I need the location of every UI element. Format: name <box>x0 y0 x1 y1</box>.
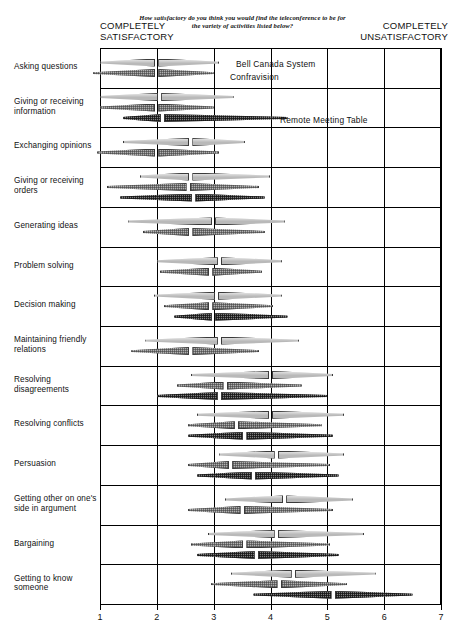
range-bar <box>197 472 339 480</box>
range-bar-upper-segment <box>244 506 333 514</box>
range-bar <box>128 217 284 225</box>
range-bar-upper-segment <box>221 257 282 265</box>
x-tick-label-4: 4 <box>261 612 281 622</box>
range-bar-upper-segment <box>190 183 260 191</box>
range-bar-upper-segment <box>215 313 287 321</box>
range-bar-lower-segment <box>191 540 243 548</box>
row-separator <box>100 247 442 248</box>
range-bar <box>188 421 322 429</box>
range-bar-upper-segment <box>278 530 365 538</box>
range-bar-upper-segment <box>164 114 288 122</box>
range-bar-lower-segment <box>231 570 292 578</box>
range-bar-lower-segment <box>197 411 269 419</box>
range-bar-upper-segment <box>192 228 264 236</box>
range-bar-lower-segment <box>188 421 235 429</box>
range-bar-lower-segment <box>123 114 161 122</box>
row-label-line: Resolving conflicts <box>14 419 98 429</box>
x-tick-3 <box>214 604 215 610</box>
row-label-line: information <box>14 107 98 117</box>
left-anchor-line2: SATISFACTORY <box>100 31 210 42</box>
range-bar-lower-segment <box>211 580 278 588</box>
x-tick-2 <box>157 604 158 610</box>
range-bar <box>188 432 333 440</box>
range-bar-lower-segment <box>143 228 190 236</box>
range-bar <box>174 313 288 321</box>
range-bar-lower-segment <box>97 149 155 157</box>
range-bar-upper-segment <box>281 580 348 588</box>
row-label-line: Exchanging opinions <box>14 141 98 151</box>
range-bar-upper-segment <box>161 93 233 101</box>
range-bar-lower-segment <box>140 173 190 181</box>
range-bar <box>211 580 347 588</box>
row-label-line: Giving or receiving <box>14 97 98 107</box>
row-label: Generating ideas <box>14 221 98 231</box>
range-bar <box>208 530 364 538</box>
range-bar-upper-segment <box>335 591 413 599</box>
row-label: Asking questions <box>14 62 98 72</box>
range-bar-lower-segment <box>191 371 269 379</box>
range-bar-lower-segment <box>131 347 189 355</box>
range-bar <box>97 149 219 157</box>
range-bar <box>100 93 234 101</box>
x-tick-4 <box>271 604 272 610</box>
row-separator <box>100 405 442 406</box>
row-label-line: Persuasion <box>14 459 98 469</box>
range-bar <box>100 104 214 112</box>
range-bar <box>231 570 376 578</box>
range-bar-upper-segment <box>158 69 213 77</box>
row-separator <box>100 564 442 565</box>
row-label-line: Getting other on one's <box>14 494 98 504</box>
row-label: Getting other on one'sside in argument <box>14 494 98 513</box>
row-separator <box>100 88 442 89</box>
range-bar-lower-segment <box>157 392 218 400</box>
row-label: Resolving conflicts <box>14 419 98 429</box>
range-bar <box>93 69 213 77</box>
range-bar-lower-segment <box>93 69 155 77</box>
x-tick-label-3: 3 <box>204 612 224 622</box>
right-anchor-line2: UNSATISFACTORY <box>330 31 448 42</box>
range-bar-upper-segment <box>192 347 259 355</box>
row-label-line: Bargaining <box>14 539 98 549</box>
range-bar-upper-segment <box>218 292 282 300</box>
row-label: Giving or receivingorders <box>14 176 98 195</box>
legend-label: Remote Meeting Table <box>280 115 368 125</box>
range-bar-lower-segment <box>120 194 192 202</box>
range-bar-upper-segment <box>232 461 330 469</box>
range-bar <box>100 59 219 67</box>
x-tick-7 <box>441 604 442 610</box>
range-bar-lower-segment <box>160 268 210 276</box>
range-bar-lower-segment <box>188 432 243 440</box>
range-bar <box>107 183 259 191</box>
range-bar-upper-segment <box>158 59 219 67</box>
range-bar-lower-segment <box>128 217 212 225</box>
row-separator <box>100 207 442 208</box>
range-bar <box>143 228 265 236</box>
range-bar <box>157 392 328 400</box>
x-tick-label-7: 7 <box>431 612 449 622</box>
left-anchor-line1: COMPLETELY <box>100 20 210 31</box>
range-bar-lower-segment <box>100 93 158 101</box>
range-bar-lower-segment <box>197 472 252 480</box>
x-tick-label-5: 5 <box>317 612 337 622</box>
row-separator <box>100 366 442 367</box>
range-bar-upper-segment <box>246 432 333 440</box>
range-bar-upper-segment <box>212 302 273 310</box>
row-separator <box>100 48 442 49</box>
range-bar-lower-segment <box>107 183 187 191</box>
range-bar <box>154 292 282 300</box>
row-separator <box>100 485 442 486</box>
range-bar-upper-segment <box>195 194 265 202</box>
range-bar-upper-segment <box>212 268 262 276</box>
range-bar <box>140 173 271 181</box>
row-label-line: side in argument <box>14 504 98 514</box>
row-label: Maintaining friendlyrelations <box>14 335 98 354</box>
range-bar <box>188 506 333 514</box>
row-label-line: someone <box>14 583 98 593</box>
row-label: Exchanging opinions <box>14 141 98 151</box>
range-bar-upper-segment <box>158 104 213 112</box>
row-label: Getting to knowsomeone <box>14 574 98 593</box>
range-bar-lower-segment <box>123 138 190 146</box>
right-anchor-label: COMPLETELY UNSATISFACTORY <box>330 20 448 42</box>
range-bar-lower-segment <box>225 495 283 503</box>
range-bar-upper-segment <box>272 371 333 379</box>
